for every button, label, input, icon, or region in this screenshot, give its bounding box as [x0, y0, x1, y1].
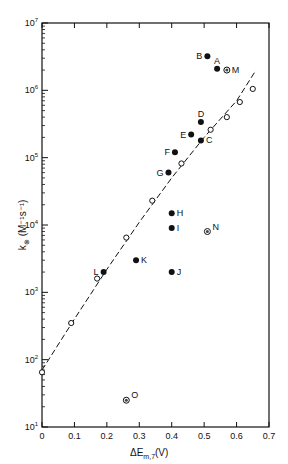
svg-text:ΔEm,7(V): ΔEm,7(V): [130, 447, 168, 460]
y-tick-label: 105: [25, 152, 39, 163]
filled-point-e: [188, 132, 194, 138]
filled-point-b: [204, 53, 210, 59]
scatter-chart: 101102103104105106107 00.10.20.30.40.50.…: [0, 0, 288, 464]
open-circle-point: [69, 320, 74, 325]
x-axis-ticks: 00.10.20.30.40.50.60.7: [39, 23, 275, 441]
point-label: I: [177, 223, 180, 233]
point-label: G: [156, 168, 163, 178]
point-label: D: [198, 109, 205, 119]
filled-point-l: [101, 269, 107, 275]
y-tick-label: 107: [25, 17, 39, 28]
y-tick-label: 103: [25, 286, 39, 297]
x-tick-label: 0.4: [165, 431, 178, 441]
point-label: N: [212, 222, 219, 232]
open-circle-point: [179, 161, 184, 166]
point-label: E: [180, 130, 186, 140]
open-circle-point: [124, 235, 129, 240]
filled-point-g: [165, 170, 171, 176]
x-tick-label: 0.6: [230, 431, 243, 441]
point-label: B: [196, 51, 202, 61]
x-axis-label: ΔEm,7(V): [130, 447, 168, 460]
open-circle-point: [150, 198, 155, 203]
data-points: ABCDEFGHIJKLMNO: [39, 51, 255, 403]
y-tick-label: 106: [25, 84, 39, 95]
point-label: A: [214, 56, 220, 66]
x-tick-label: 0.3: [133, 431, 146, 441]
filled-point-j: [169, 269, 175, 275]
filled-point-f: [172, 149, 178, 155]
point-label: M: [232, 65, 240, 75]
filled-point-d: [198, 119, 204, 125]
open-circle-point: [250, 86, 255, 91]
fit-curve: [42, 70, 256, 370]
x-tick-label: 0.5: [198, 431, 211, 441]
filled-point-k: [133, 257, 139, 263]
point-label: C: [206, 135, 213, 145]
x-tick-label: 0.7: [263, 431, 276, 441]
point-label: O: [131, 390, 138, 400]
point-label: K: [141, 255, 147, 265]
point-label: F: [164, 147, 170, 157]
filled-point-i: [169, 225, 175, 231]
y-tick-label: 102: [25, 354, 39, 365]
point-label: L: [94, 267, 99, 277]
open-circle-point: [237, 99, 242, 104]
filled-point-c: [198, 137, 204, 143]
open-circle-point: [224, 115, 229, 120]
open-circle-point: [39, 370, 44, 375]
open-circle-point: [208, 127, 213, 132]
point-label: H: [177, 208, 184, 218]
x-tick-label: 0.2: [101, 431, 114, 441]
y-tick-label: 101: [25, 421, 39, 432]
filled-point-a: [214, 66, 220, 72]
point-label: J: [177, 267, 182, 277]
plot-frame: [42, 23, 269, 427]
filled-point-h: [169, 210, 175, 216]
x-tick-label: 0.1: [68, 431, 81, 441]
x-tick-label: 0: [39, 431, 44, 441]
y-axis-ticks: 101102103104105106107: [25, 17, 48, 432]
